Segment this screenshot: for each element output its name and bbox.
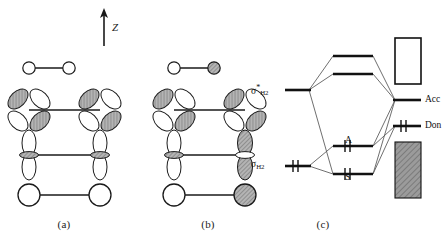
panel-a-row-metal-d-orbitals xyxy=(4,85,125,135)
panel-b xyxy=(145,55,275,210)
panel-c xyxy=(275,38,442,213)
panel-a-row-metal-p-orbitals xyxy=(20,130,110,180)
caption-b: (b) xyxy=(188,218,228,230)
level-a-antisymmetric xyxy=(333,140,373,152)
sigma-sub-2: 2 xyxy=(265,89,268,96)
band-valence-filled xyxy=(395,142,421,198)
caption-c: (c) xyxy=(303,218,343,230)
label-acceptor: Acc xyxy=(425,94,440,104)
label-donor: Don xyxy=(425,120,441,130)
panel-a-row-metal-s-orbitals xyxy=(18,184,111,206)
panel-b-row-h2-sigma-antibonding xyxy=(168,62,220,74)
panel-a xyxy=(0,55,130,210)
label-level-a: A xyxy=(345,135,352,145)
sigma-bonding-sub-2: 2 xyxy=(261,163,264,170)
label-sigma-h2-antibonding: σ*H2 xyxy=(251,83,268,96)
level-donor xyxy=(393,120,421,132)
panel-b-row-metal-p-orbitals xyxy=(165,130,255,180)
z-axis-label: Z xyxy=(112,21,118,33)
label-sigma-h2-bonding: σH2 xyxy=(251,159,264,170)
level-s-symmetric xyxy=(333,168,373,180)
panel-b-row-metal-s-orbitals xyxy=(163,184,256,206)
level-sigma-h2-bonding xyxy=(285,160,311,172)
label-level-s: S xyxy=(345,172,350,182)
band-conduction-empty xyxy=(395,38,421,84)
figure-root: Z xyxy=(0,0,442,244)
panel-a-row-h2-sigma-bonding xyxy=(23,62,75,74)
caption-a: (a) xyxy=(44,218,84,230)
